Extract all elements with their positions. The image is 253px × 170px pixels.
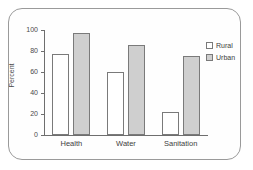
bar-sanitation-urban	[183, 56, 200, 135]
legend-item-rural[interactable]: Rural	[206, 41, 235, 50]
y-tick-80	[41, 51, 44, 52]
y-tick-label-40: 40	[16, 89, 38, 96]
y-tick-label-100: 100	[16, 26, 38, 33]
y-tick-100	[41, 30, 44, 31]
legend-label-rural: Rural	[216, 41, 233, 50]
y-tick-label-20: 20	[16, 110, 38, 117]
legend-item-urban[interactable]: Urban	[206, 53, 235, 62]
x-label-sanitation: Sanitation	[153, 139, 208, 148]
bar-health-urban	[73, 33, 90, 135]
x-axis-line	[44, 135, 208, 136]
bar-health-rural	[52, 54, 69, 135]
chart-legend: Rural Urban	[206, 41, 235, 65]
y-axis-line	[44, 30, 45, 136]
y-axis-label: Percent	[8, 54, 15, 98]
rural-swatch-icon	[206, 42, 213, 49]
x-label-water: Water	[99, 139, 154, 148]
y-tick-40	[41, 93, 44, 94]
y-tick-60	[41, 72, 44, 73]
urban-swatch-icon	[206, 54, 213, 61]
y-tick-label-80: 80	[16, 47, 38, 54]
y-tick-0	[41, 135, 44, 136]
y-tick-20	[41, 114, 44, 115]
bar-sanitation-rural	[162, 112, 179, 135]
legend-label-urban: Urban	[216, 53, 235, 62]
x-label-health: Health	[44, 139, 99, 148]
bar-water-rural	[107, 72, 124, 135]
bar-water-urban	[128, 45, 145, 135]
y-tick-label-60: 60	[16, 68, 38, 75]
y-tick-label-0: 0	[16, 131, 38, 138]
bar-chart: Percent 020406080100 HealthWaterSanitati…	[0, 0, 253, 170]
